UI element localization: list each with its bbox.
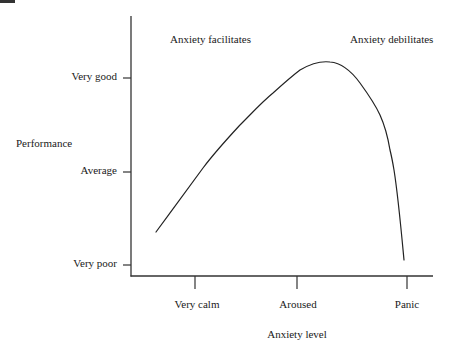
x-tick-label-aroused: Aroused [279,298,316,311]
performance-curve [156,62,404,260]
y-tick-label-very-good: Very good [71,70,117,83]
chart-plot [0,0,454,357]
annotation-anxiety-debilitates: Anxiety debilitates [350,33,433,46]
y-axis-label: Performance [16,137,72,150]
y-tick-label-average: Average [81,164,117,177]
x-axis-label: Anxiety level [267,328,327,341]
annotation-anxiety-facilitates: Anxiety facilitates [170,33,251,46]
x-tick-label-very-calm: Very calm [175,298,220,311]
x-tick-label-panic: Panic [395,298,419,311]
y-tick-label-very-poor: Very poor [73,257,117,270]
